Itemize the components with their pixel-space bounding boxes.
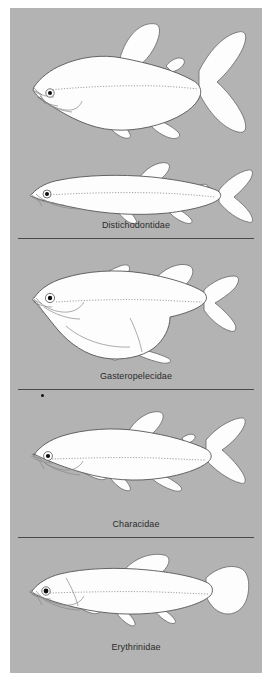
fish-hatchetfish [32, 264, 239, 363]
caption-gasteropelecidae: Gasteropelecidae [10, 371, 262, 382]
fish-trahira [29, 554, 249, 626]
ink-speck [41, 394, 44, 397]
fish-deep-bodied-distichodontid [32, 24, 246, 139]
fish-characin [31, 412, 245, 492]
caption-characidae: Characidae [10, 519, 262, 530]
caption-distichodontidae: Distichodontidae [10, 220, 262, 231]
caption-erythrinidae: Erythrinidae [10, 642, 262, 653]
figure-plate: Distichodontidae Gasteropelecidae Charac… [10, 8, 262, 673]
divider-3 [18, 537, 254, 538]
fish-illustrations [10, 8, 262, 673]
divider-1 [18, 238, 254, 239]
divider-2 [18, 389, 254, 390]
fish-elongate-distichodontid [30, 163, 252, 224]
